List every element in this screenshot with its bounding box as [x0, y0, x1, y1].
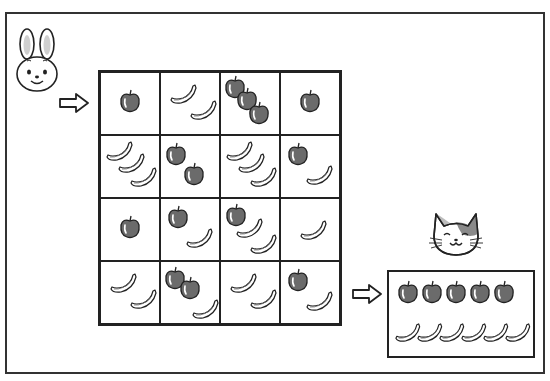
apple-icon	[287, 268, 309, 292]
apple-icon	[183, 162, 205, 186]
apple-icon	[421, 280, 443, 304]
apple-icon	[179, 276, 201, 300]
grid-cell-r2-c1[interactable]	[100, 135, 160, 198]
grid-cell-r4-c4[interactable]	[280, 261, 340, 324]
right-arrow-icon	[352, 284, 382, 304]
grid-cell-r3-c2[interactable]	[160, 198, 220, 261]
grid-cell-r3-c4[interactable]	[280, 198, 340, 261]
grid-cell-r1-c1[interactable]	[100, 72, 160, 135]
grid-cell-r3-c3[interactable]	[220, 198, 280, 261]
banana-icon	[249, 166, 279, 188]
grid-cell-r2-c3[interactable]	[220, 135, 280, 198]
grid-cell-r2-c4[interactable]	[280, 135, 340, 198]
banana-icon	[299, 219, 329, 241]
grid-cell-r4-c2[interactable]	[160, 261, 220, 324]
grid-cell-r1-c4[interactable]	[280, 72, 340, 135]
grid-cell-r1-c2[interactable]	[160, 72, 220, 135]
grid-cell-r4-c3[interactable]	[220, 261, 280, 324]
banana-icon	[305, 290, 335, 312]
banana-icon	[129, 166, 159, 188]
target-fruit-box	[387, 270, 535, 358]
fruit-grid	[98, 70, 342, 326]
banana-icon	[189, 99, 219, 121]
cat-face-icon	[426, 206, 486, 258]
banana-icon	[504, 322, 533, 343]
banana-icon	[185, 227, 215, 249]
apple-icon	[167, 205, 189, 229]
rabbit-face-icon	[14, 28, 60, 94]
banana-icon	[249, 233, 279, 255]
banana-icon	[129, 288, 159, 310]
grid-cell-r2-c2[interactable]	[160, 135, 220, 198]
grid-cell-r3-c1[interactable]	[100, 198, 160, 261]
right-arrow-icon	[59, 93, 89, 113]
apple-icon	[119, 89, 141, 113]
banana-icon	[305, 164, 335, 186]
banana-icon	[249, 288, 279, 310]
apple-icon	[397, 280, 419, 304]
apple-icon	[493, 280, 515, 304]
apple-icon	[469, 280, 491, 304]
apple-icon	[287, 142, 309, 166]
apple-icon	[248, 101, 270, 125]
banana-icon	[191, 298, 221, 320]
grid-cell-r4-c1[interactable]	[100, 261, 160, 324]
grid-cell-r1-c3[interactable]	[220, 72, 280, 135]
apple-icon	[445, 280, 467, 304]
apple-icon	[119, 215, 141, 239]
apple-icon	[299, 89, 321, 113]
